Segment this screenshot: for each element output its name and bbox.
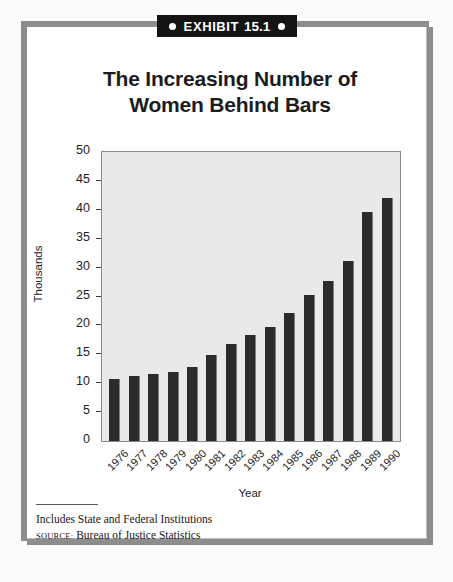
y-tick-label-5: 5: [42, 403, 90, 417]
exhibit-tab: EXHIBIT 15.1: [157, 15, 297, 37]
bar-1988: [343, 261, 354, 441]
bullet-dot-icon-right: [278, 23, 285, 30]
source-prefix: Source:: [36, 531, 73, 541]
footnote-source: Source: Bureau of Justice Statistics: [36, 528, 376, 544]
exhibit-page: EXHIBIT 15.1 The Increasing Number of Wo…: [0, 0, 453, 582]
bar-1989: [362, 212, 373, 441]
bar-1978: [148, 374, 159, 441]
y-tick-label-30: 30: [42, 259, 90, 273]
bar-1986: [304, 295, 315, 441]
y-tick-label-40: 40: [42, 201, 90, 215]
footnotes: Includes State and Federal Institutions …: [36, 512, 376, 544]
bar-1990: [382, 198, 393, 441]
bar-1979: [168, 372, 179, 441]
footnote-note: Includes State and Federal Institutions: [36, 512, 376, 527]
exhibit-number: 15.1: [244, 19, 270, 34]
y-tick-label-50: 50: [42, 143, 90, 157]
y-tick-label-45: 45: [42, 172, 90, 186]
exhibit-label: EXHIBIT: [184, 19, 239, 34]
y-tick-label-20: 20: [42, 316, 90, 330]
bullet-dot-icon-left: [169, 23, 176, 30]
source-text: Bureau of Justice Statistics: [76, 529, 200, 541]
bar-1983: [245, 335, 256, 441]
bar-series: [102, 152, 400, 441]
bar-chart: Thousands 05101520253035404550 197619771…: [0, 0, 453, 582]
bar-1980: [187, 367, 198, 441]
bar-1987: [323, 281, 334, 441]
x-axis-title: Year: [101, 487, 399, 499]
bar-1976: [109, 379, 120, 441]
bar-1984: [265, 327, 276, 441]
bar-1981: [206, 355, 217, 441]
plot-area: [101, 151, 401, 442]
bar-1982: [226, 344, 237, 441]
footnote-divider: [36, 504, 98, 505]
y-tick-label-10: 10: [42, 374, 90, 388]
y-tick-label-25: 25: [42, 288, 90, 302]
y-tick-label-35: 35: [42, 230, 90, 244]
y-tick-label-0: 0: [42, 432, 90, 446]
y-tick-label-15: 15: [42, 345, 90, 359]
bar-1977: [129, 376, 140, 441]
bar-1985: [284, 313, 295, 441]
